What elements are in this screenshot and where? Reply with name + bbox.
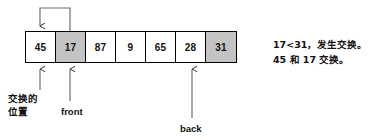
back-label: back	[180, 122, 202, 135]
swap-position-label: 交换的 位置	[8, 92, 38, 118]
array-container: 45 17 87 9 65 28 31	[25, 31, 237, 63]
swap-arc-arrow	[40, 8, 70, 31]
array-cell-5: 28	[176, 32, 206, 62]
swap-position-label-line2: 位置	[8, 105, 38, 118]
explanation-note-line1: 17<31，发生交换。	[273, 37, 367, 52]
array-cell-0: 45	[26, 32, 56, 62]
diagram-arrows-layer	[0, 0, 391, 140]
array-cell-6: 31	[206, 32, 236, 62]
front-label: front	[61, 105, 83, 118]
array-cell-1: 17	[56, 32, 86, 62]
swap-position-label-line1: 交换的	[8, 92, 38, 105]
explanation-note: 17<31，发生交换。 45 和 17 交换。	[273, 37, 367, 67]
array-cell-2: 87	[86, 32, 116, 62]
array-cell-3: 9	[116, 32, 146, 62]
array-swap-diagram: 45 17 87 9 65 28 31 交换的 位置 front back 17…	[0, 0, 391, 140]
explanation-note-line2: 45 和 17 交换。	[273, 52, 367, 67]
array-cell-4: 65	[146, 32, 176, 62]
